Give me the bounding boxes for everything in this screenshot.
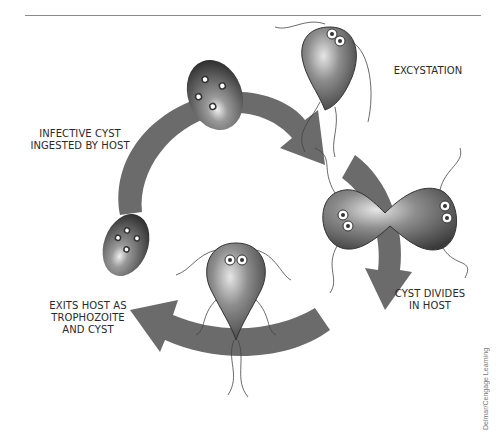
- stage-label-exits-host: EXITS HOST AS TROPHOZOITE AND CYST: [38, 300, 138, 336]
- image-credit: Delmar/Cengage Learning: [482, 330, 494, 430]
- stage-label-excystation: EXCYSTATION: [378, 65, 478, 77]
- stage-label-infective-cyst: INFECTIVE CYST INGESTED BY HOST: [22, 128, 138, 152]
- exiting-cyst: [94, 207, 157, 282]
- excystation-trophozoite: [275, 22, 371, 157]
- stage-label-cyst-divides: CYST DIVIDES IN HOST: [385, 288, 475, 312]
- trophozoite: [176, 243, 291, 397]
